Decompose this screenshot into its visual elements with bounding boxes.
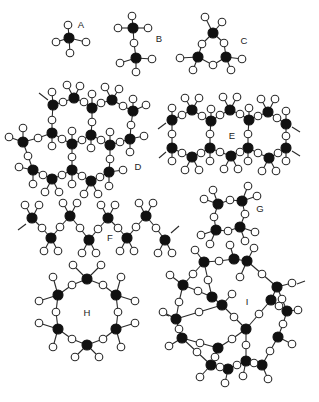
- silicon-atom: [104, 167, 114, 177]
- oxygen-atom: [206, 240, 214, 248]
- oxygen-atom: [230, 313, 238, 321]
- oxygen-atom: [119, 102, 127, 110]
- silicon-atom: [84, 235, 94, 245]
- oxygen-atom: [254, 112, 262, 120]
- oxygen-atom: [99, 281, 107, 289]
- oxygen-atom: [250, 244, 258, 252]
- silicate-structures-figure: ABCDEFGHI: [0, 0, 319, 402]
- oxygen-atom: [204, 276, 212, 284]
- silicon-atom: [103, 213, 113, 223]
- oxygen-atom: [228, 335, 236, 343]
- silicon-atom: [244, 115, 254, 125]
- silicon-atom: [235, 222, 245, 232]
- oxygen-atom: [282, 157, 290, 165]
- oxygen-atom: [221, 379, 229, 387]
- oxygen-atom: [251, 228, 259, 236]
- oxygen-atom: [95, 353, 103, 361]
- oxygen-atom: [24, 152, 32, 160]
- oxygen-atom: [227, 66, 235, 74]
- silicon-atom: [111, 324, 121, 334]
- silicon-atom: [213, 199, 223, 209]
- oxygen-atom: [127, 121, 135, 129]
- oxygen-atom: [34, 134, 42, 142]
- oxygen-atom: [189, 270, 197, 278]
- oxygen-atom: [236, 148, 244, 156]
- oxygen-atom: [73, 199, 81, 207]
- oxygen-atom: [131, 297, 139, 305]
- oxygen-atom: [210, 213, 218, 221]
- oxygen-atom: [168, 104, 176, 112]
- silicon-atom: [69, 93, 79, 103]
- silicon-atom: [225, 105, 235, 115]
- oxygen-atom: [41, 188, 49, 196]
- oxygen-atom: [200, 195, 208, 203]
- oxygen-atom: [195, 94, 203, 102]
- oxygen-atom: [21, 201, 29, 209]
- oxygen-atom: [116, 247, 124, 255]
- oxygen-atom: [288, 279, 296, 287]
- structure-D: D: [5, 81, 150, 198]
- oxygen-atom: [119, 166, 127, 174]
- silicon-atom: [242, 256, 252, 266]
- oxygen-atom: [193, 348, 201, 356]
- oxygen-atom: [159, 308, 167, 316]
- structure-F: F: [18, 199, 179, 257]
- oxygen-atom: [178, 111, 186, 119]
- oxygen-atom: [236, 273, 244, 281]
- silicon-atom: [257, 360, 267, 370]
- oxygen-atom: [97, 201, 105, 209]
- silicon-atom: [243, 143, 253, 153]
- oxygen-atom: [206, 130, 214, 138]
- oxygen-atom: [194, 287, 202, 295]
- oxygen-atom: [48, 142, 56, 150]
- oxygen-atom: [114, 24, 122, 32]
- oxygen-atom: [220, 39, 228, 47]
- oxygen-atom: [207, 105, 215, 113]
- oxygen-atom: [209, 61, 217, 69]
- oxygen-atom: [244, 182, 252, 190]
- oxygen-atom: [106, 128, 114, 136]
- silicon-atom: [171, 314, 181, 324]
- oxygen-atom: [215, 257, 223, 265]
- oxygen-atom: [82, 38, 90, 46]
- oxygen-atom: [176, 54, 184, 62]
- silicon-atom: [125, 134, 135, 144]
- oxygen-atom: [168, 249, 176, 257]
- oxygen-atom: [69, 261, 77, 269]
- oxygen-atom: [76, 82, 84, 90]
- oxygen-atom: [126, 148, 134, 156]
- silicon-atom: [207, 292, 217, 302]
- silicon-atom: [281, 143, 291, 153]
- structure-A: A: [52, 19, 90, 57]
- oxygen-atom: [258, 167, 266, 175]
- oxygen-atom: [63, 81, 71, 89]
- oxygen-atom: [35, 201, 43, 209]
- oxygen-atom: [275, 302, 283, 310]
- silicon-atom: [199, 257, 209, 267]
- continuation-tick: [159, 152, 166, 158]
- oxygen-atom: [168, 157, 176, 165]
- oxygen-atom: [220, 165, 228, 173]
- oxygen-atom: [128, 12, 136, 20]
- structure-B: B: [114, 12, 162, 76]
- oxygen-atom: [105, 182, 113, 190]
- silicon-atom: [64, 33, 74, 43]
- oxygen-atom: [131, 319, 139, 327]
- silicon-atom: [177, 333, 187, 343]
- oxygen-atom: [241, 237, 249, 245]
- silicon-atom: [160, 235, 170, 245]
- silicon-atom: [193, 52, 203, 62]
- structure-I: I: [159, 241, 305, 387]
- oxygen-atom: [59, 199, 67, 207]
- oxygen-atom: [274, 149, 282, 157]
- oxygen-atom: [244, 157, 252, 165]
- oxygen-atom: [54, 247, 62, 255]
- oxygen-atom: [198, 112, 206, 120]
- oxygen-atom: [195, 308, 203, 316]
- continuation-tick: [18, 224, 26, 230]
- oxygen-atom: [88, 118, 96, 126]
- silicon-atom: [217, 300, 227, 310]
- oxygen-atom: [253, 192, 261, 200]
- oxygen-atom: [48, 116, 56, 124]
- silicon-atom: [86, 176, 96, 186]
